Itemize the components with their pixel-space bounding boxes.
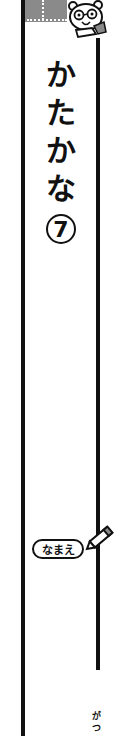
title-char: な [46,170,76,208]
right-border-line [96,48,100,670]
book-title: か た か な 7 [36,56,86,244]
header-dotted-rule [27,19,67,21]
month-label: が つ [88,710,104,734]
bear-mascot-icon [64,0,110,42]
pencil-icon [82,522,118,554]
title-char: か [46,56,76,94]
title-char: た [46,94,76,132]
month-char: が [92,710,101,722]
volume-number-badge: 7 [46,214,76,244]
month-char: つ [92,722,101,734]
left-border-line [21,0,25,736]
header-dotted-divider [42,0,44,20]
name-label: なまえ [32,539,84,559]
title-char: か [46,132,76,170]
